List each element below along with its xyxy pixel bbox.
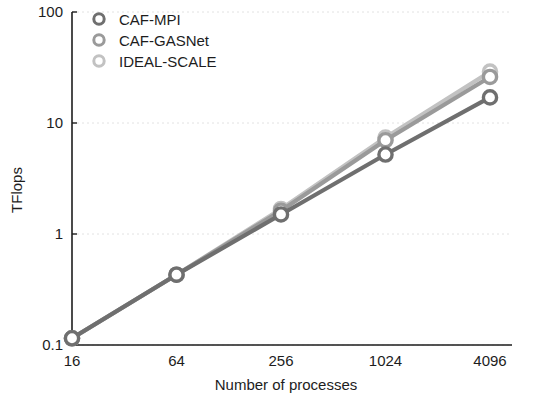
- x-tick-label: 16: [64, 352, 81, 369]
- legend-label-caf-mpi: CAF-MPI: [119, 11, 181, 28]
- y-axis-title: TFlops: [8, 167, 25, 213]
- legend-label-caf-gasnet: CAF-GASNet: [119, 32, 210, 49]
- legend-label-ideal-scale: IDEAL-SCALE: [119, 53, 217, 70]
- x-tick-label: 1024: [369, 352, 402, 369]
- chart-container: 0.1110100 166425610244096 Number of proc…: [0, 0, 536, 406]
- y-tick-label: 0.1: [42, 336, 63, 353]
- x-tick-label: 256: [268, 352, 293, 369]
- x-tick-label: 4096: [473, 352, 506, 369]
- scaling-performance-chart: 0.1110100 166425610244096 Number of proc…: [0, 0, 536, 406]
- x-axis-title: Number of processes: [215, 376, 358, 393]
- y-tick-label: 100: [38, 3, 63, 20]
- x-tick-label: 64: [168, 352, 185, 369]
- y-tick-label: 10: [46, 114, 63, 131]
- y-tick-label: 1: [55, 225, 63, 242]
